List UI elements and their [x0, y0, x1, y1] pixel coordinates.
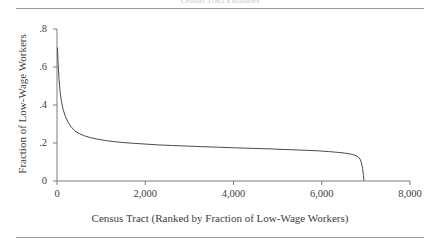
- x-tick-label: 4,000: [208, 188, 260, 200]
- x-axis-ticks: [57, 181, 410, 185]
- axes-group: [53, 29, 410, 185]
- x-tick-label: 0: [31, 188, 83, 200]
- top-horizontal-rule: [16, 8, 424, 9]
- x-tick-label: 6,000: [296, 188, 348, 200]
- y-axis-ticks: [53, 29, 57, 181]
- figure-container: Census Tract Estimates 0.2.4.6.8 02,0004…: [0, 0, 437, 250]
- x-tick-label: 2,000: [119, 188, 171, 200]
- x-tick-label: 8,000: [384, 188, 436, 200]
- header-caption: Census Tract Estimates: [16, 0, 424, 6]
- x-axis-title: Census Tract (Ranked by Fraction of Low-…: [24, 212, 416, 224]
- y-axis-title: Fraction of Low-Wage Workers: [16, 14, 28, 194]
- line-series-fraction-low-wage-workers: [57, 48, 363, 180]
- plot-area: 0.2.4.6.8 02,0004,0006,0008,000 Fraction…: [0, 14, 437, 229]
- bottom-horizontal-rule: [16, 237, 424, 238]
- data-series-group: [57, 48, 363, 180]
